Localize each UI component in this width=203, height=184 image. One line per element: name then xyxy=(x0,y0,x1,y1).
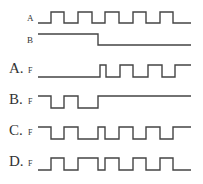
waveform xyxy=(38,96,191,108)
waveform xyxy=(38,12,191,23)
answer-option-waveforms: A.FB.FC.FD.F xyxy=(9,60,191,170)
option-letter: C. xyxy=(9,122,23,138)
waveform xyxy=(38,65,191,77)
waveform xyxy=(38,127,191,139)
option-letter: D. xyxy=(9,153,24,169)
option-c: C.F xyxy=(9,122,191,139)
option-a: A.F xyxy=(9,60,191,77)
option-d: D.F xyxy=(9,153,191,170)
input-waveforms: AB xyxy=(27,12,191,45)
output-signal-label: F xyxy=(28,97,33,106)
waveform xyxy=(38,34,191,45)
option-letter: B. xyxy=(9,91,23,107)
option-b: B.F xyxy=(9,91,191,108)
signal-label: A xyxy=(27,13,34,23)
input-signal-a: A xyxy=(27,12,191,23)
output-signal-label: F xyxy=(28,159,33,168)
input-signal-b: B xyxy=(27,34,191,45)
option-letter: A. xyxy=(9,60,24,76)
waveform xyxy=(38,158,191,170)
output-signal-label: F xyxy=(28,66,33,75)
timing-diagram: AB A.FB.FC.FD.F xyxy=(0,0,203,184)
output-signal-label: F xyxy=(28,128,33,137)
signal-label: B xyxy=(27,35,33,45)
